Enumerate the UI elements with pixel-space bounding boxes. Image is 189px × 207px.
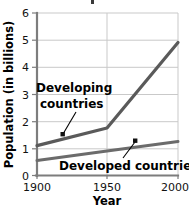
xtick-label-1900: 1900 bbox=[23, 181, 51, 194]
annotation-developing-marker bbox=[61, 132, 65, 136]
ytick-label-1: 1 bbox=[22, 143, 29, 156]
population-line-chart: 6 5 4 3 2 1 0 1900 1950 2000 Population … bbox=[0, 0, 189, 207]
xtick-label-1950: 1950 bbox=[93, 181, 121, 194]
x-axis-title: Year bbox=[92, 194, 122, 207]
annotation-developed-label: Developed countries bbox=[59, 159, 189, 173]
ytick-label-2: 2 bbox=[22, 116, 29, 129]
ytick-label-6: 6 bbox=[22, 7, 29, 20]
annotation-developed-marker bbox=[133, 139, 137, 143]
annotation-developing-line2: countries bbox=[40, 97, 104, 111]
cropped-title-remnant bbox=[91, 0, 94, 4]
y-axis-title: Population (in billions) bbox=[2, 21, 16, 169]
ytick-label-5: 5 bbox=[22, 34, 29, 47]
ytick-label-3: 3 bbox=[22, 89, 29, 102]
cropped-title-glyph bbox=[91, 0, 94, 4]
ytick-label-4: 4 bbox=[22, 61, 29, 74]
chart-canvas: 6 5 4 3 2 1 0 1900 1950 2000 Population … bbox=[0, 0, 189, 207]
xtick-label-2000: 2000 bbox=[161, 181, 189, 194]
annotation-developing-line1: Developing bbox=[36, 81, 112, 95]
